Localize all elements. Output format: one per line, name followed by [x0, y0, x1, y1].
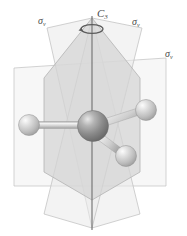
label-sigma-v-left: σv: [38, 16, 46, 26]
atom-lower-right: [116, 146, 137, 167]
label-sigma-v-far: σv: [165, 49, 173, 59]
molecular-symmetry-figure: C3 σv σv σv: [0, 0, 187, 236]
atom-left: [19, 115, 40, 136]
label-sigma-v-left-subscript: v: [43, 21, 46, 27]
atom-upper-right: [136, 100, 157, 121]
symmetry-diagram-canvas: [0, 0, 187, 236]
label-c3-subscript: 3: [104, 13, 108, 21]
label-sigma-v-far-subscript: v: [170, 54, 173, 60]
label-sigma-v-right: σv: [132, 17, 140, 27]
label-sigma-v-right-subscript: v: [137, 22, 140, 28]
atom-central: [78, 111, 109, 142]
label-c3-axis: C3: [97, 8, 108, 19]
